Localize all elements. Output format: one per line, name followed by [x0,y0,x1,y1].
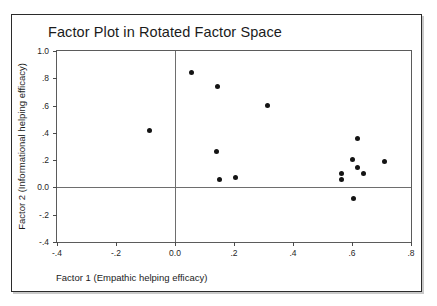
x-tick-mark [352,242,353,246]
factor-plot-figure: Factor Plot in Rotated Factor Space Fact… [0,0,437,306]
x-tick-mark [116,242,117,246]
y-axis-title-label: Factor 2 (Informational helping efficacy… [16,63,27,230]
data-point [339,177,344,182]
data-point [147,128,152,133]
y-tick-mark [53,160,57,161]
data-point [233,175,238,180]
data-point [214,149,219,154]
y-tick-label: 1.0 [37,46,49,56]
data-point [217,177,222,182]
y-tick-mark [53,215,57,216]
x-tick-label: .6 [348,248,355,258]
data-point [189,70,194,75]
page-title: Factor Plot in Rotated Factor Space [48,24,368,40]
data-point [382,159,387,164]
y-tick-mark [53,51,57,52]
data-point [339,171,344,176]
data-point [351,196,356,201]
data-point [350,157,355,162]
x-tick-label: -.4 [52,248,62,258]
x-tick-mark [411,242,412,246]
data-point [355,165,360,170]
y-tick-label: .2 [42,155,49,165]
y-tick-label: -.4 [39,237,49,247]
y-tick-label: .4 [42,128,49,138]
y-tick-mark [53,78,57,79]
x-tick-label: 0.0 [169,248,181,258]
y-tick-label: .8 [42,73,49,83]
zero-line-vertical [175,51,176,242]
y-tick-mark [53,187,57,188]
data-point [215,84,220,89]
x-tick-mark [234,242,235,246]
x-tick-mark [57,242,58,246]
y-tick-label: .6 [42,101,49,111]
plot-area: -.4-.20.0.2.4.6.8 -.4-.20.0.2.4.6.81.0 [56,50,412,243]
x-tick-mark [175,242,176,246]
y-tick-mark [53,242,57,243]
x-tick-label: .8 [407,248,414,258]
y-tick-mark [53,133,57,134]
data-point [361,171,366,176]
data-point [265,103,270,108]
x-tick-label: .2 [230,248,237,258]
x-tick-label: .4 [289,248,296,258]
x-axis-title: Factor 1 (Empathic helping efficacy) [56,272,207,283]
y-tick-label: 0.0 [37,182,49,192]
x-tick-label: -.2 [111,248,121,258]
y-axis-title: Factor 2 (Informational helping efficacy… [14,50,28,243]
x-tick-mark [293,242,294,246]
y-tick-mark [53,106,57,107]
zero-line-horizontal [57,187,411,188]
y-tick-label: -.2 [39,210,49,220]
data-point [355,136,360,141]
